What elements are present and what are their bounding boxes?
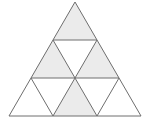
triangle-r1-1-shaded <box>53 2 97 40</box>
triangle-diagram <box>0 0 147 124</box>
